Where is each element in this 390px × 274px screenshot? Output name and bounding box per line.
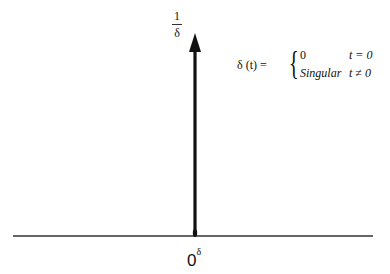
impulse-arrowhead-icon <box>189 33 201 52</box>
formula-lhs: δ (t) = <box>237 58 267 73</box>
diagram-graphics <box>0 0 390 274</box>
height-label-numerator: 1 <box>170 10 184 22</box>
origin-superscript: δ <box>196 246 201 257</box>
case-condition-2: t ≠ 0 <box>349 66 371 81</box>
height-label-denominator: δ <box>170 27 184 39</box>
case-value-1: 0 <box>300 48 306 63</box>
left-brace-icon: { <box>289 46 299 80</box>
origin-label: 0δ <box>187 250 201 271</box>
fraction-bar <box>172 24 182 25</box>
case-condition-1: t = 0 <box>349 48 372 63</box>
delta-function-diagram: 1 δ δ (t) = { 0 Singular t = 0 t ≠ 0 0δ <box>0 0 390 274</box>
impulse-height-label: 1 δ <box>170 10 184 39</box>
case-value-2: Singular <box>300 66 341 81</box>
impulse-base-dot <box>193 229 197 237</box>
